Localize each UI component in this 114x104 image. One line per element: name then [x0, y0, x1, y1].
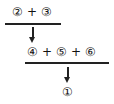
term-1: ① — [62, 85, 73, 99]
term-2: ② — [12, 5, 23, 19]
step1-expression: ②+③ — [12, 5, 52, 19]
term-4: ④ — [27, 45, 38, 59]
step2-underline — [25, 62, 109, 64]
result: ① — [62, 85, 73, 99]
term-6: ⑥ — [85, 45, 96, 59]
step1-underline — [5, 23, 61, 25]
plus-operator: + — [27, 5, 37, 19]
down-arrow-icon — [67, 67, 69, 79]
term-3: ③ — [41, 5, 52, 19]
plus-operator: + — [42, 45, 52, 59]
step2-expression: ④+⑤+⑥ — [27, 45, 96, 59]
down-arrow-icon — [32, 27, 34, 39]
plus-operator: + — [71, 45, 81, 59]
term-5: ⑤ — [56, 45, 67, 59]
